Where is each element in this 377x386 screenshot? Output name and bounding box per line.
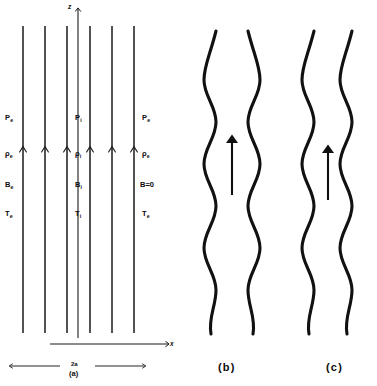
panel-c-label: (c) xyxy=(326,362,343,373)
slab-boundary-right xyxy=(340,31,352,334)
slab-boundary-left xyxy=(302,31,314,334)
figure-canvas: z x 2a (a) Pe ρe Be Te Pi ρi Bi Ti Pe ρe… xyxy=(0,0,377,386)
panel-c-graphics xyxy=(0,0,377,386)
